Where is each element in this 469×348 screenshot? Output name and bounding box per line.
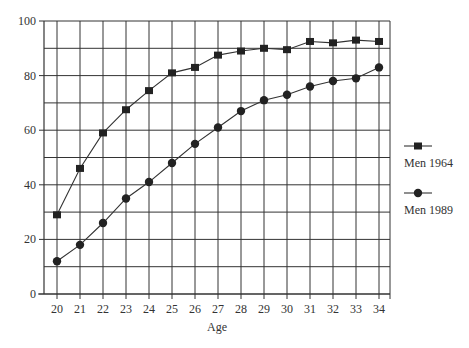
x-tick-label: 34 xyxy=(373,302,385,316)
x-tick-label: 31 xyxy=(304,302,316,316)
legend-circle-marker-icon xyxy=(414,189,422,197)
square-marker-icon xyxy=(53,211,61,218)
square-marker-icon xyxy=(352,37,360,44)
square-marker-icon xyxy=(306,38,314,45)
x-tick-label: 32 xyxy=(327,302,339,316)
y-tick-label: 40 xyxy=(24,178,36,192)
square-marker-icon xyxy=(260,45,268,52)
y-tick-label: 60 xyxy=(24,123,36,137)
circle-marker-icon xyxy=(237,107,245,115)
x-tick-label: 27 xyxy=(212,302,224,316)
square-marker-icon xyxy=(122,106,130,113)
x-tick-label: 25 xyxy=(166,302,178,316)
circle-marker-icon xyxy=(145,178,153,186)
x-tick-label: 33 xyxy=(350,302,362,316)
x-tick-label: 22 xyxy=(97,302,109,316)
y-tick-label: 80 xyxy=(24,69,36,83)
circle-marker-icon xyxy=(53,257,61,265)
x-tick-label: 29 xyxy=(258,302,270,316)
square-marker-icon xyxy=(99,129,107,136)
legend-item: Men 1989 xyxy=(404,189,453,217)
circle-marker-icon xyxy=(329,77,337,85)
circle-marker-icon xyxy=(260,96,268,104)
square-marker-icon xyxy=(375,38,383,45)
x-tick-label: 30 xyxy=(281,302,293,316)
legend-label: Men 1964 xyxy=(404,156,453,170)
x-tick-label: 21 xyxy=(74,302,86,316)
circle-marker-icon xyxy=(214,123,222,131)
legend: Men 1964Men 1989 xyxy=(404,143,453,218)
circle-marker-icon xyxy=(283,91,291,99)
circle-marker-icon xyxy=(191,140,199,148)
x-tick-label: 28 xyxy=(235,302,247,316)
square-marker-icon xyxy=(214,52,222,59)
square-marker-icon xyxy=(145,87,153,94)
circle-marker-icon xyxy=(122,194,130,202)
legend-square-marker-icon xyxy=(414,143,422,150)
circle-marker-icon xyxy=(99,219,107,227)
x-tick-label: 26 xyxy=(189,302,201,316)
square-marker-icon xyxy=(168,69,176,76)
circle-marker-icon xyxy=(375,63,383,71)
x-axis-ticks: 202122232425262728293031323334 xyxy=(51,302,385,316)
circle-marker-icon xyxy=(168,159,176,167)
line-chart: 020406080100 202122232425262728293031323… xyxy=(0,0,469,348)
grid-lines xyxy=(44,21,390,299)
x-tick-label: 24 xyxy=(143,302,155,316)
circle-marker-icon xyxy=(352,74,360,82)
y-tick-label: 0 xyxy=(30,287,36,301)
square-marker-icon xyxy=(283,46,291,53)
y-tick-label: 100 xyxy=(18,14,36,28)
y-axis-ticks: 020406080100 xyxy=(18,14,44,301)
square-marker-icon xyxy=(76,165,84,172)
square-marker-icon xyxy=(237,48,245,55)
legend-label: Men 1989 xyxy=(404,203,453,217)
circle-marker-icon xyxy=(306,82,314,90)
y-tick-label: 20 xyxy=(24,232,36,246)
x-tick-label: 23 xyxy=(120,302,132,316)
legend-item: Men 1964 xyxy=(404,143,453,171)
square-marker-icon xyxy=(329,39,337,46)
square-marker-icon xyxy=(191,64,199,71)
x-axis-label: Age xyxy=(207,320,227,334)
circle-marker-icon xyxy=(76,241,84,249)
x-tick-label: 20 xyxy=(51,302,63,316)
